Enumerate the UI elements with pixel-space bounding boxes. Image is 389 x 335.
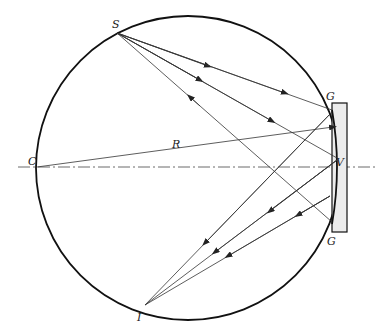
rowland-circle [36,16,340,320]
label-vertex: V [336,156,345,169]
incident-rays [117,33,337,222]
label-center: C [28,155,37,168]
radius-line [37,127,333,167]
label-grating-bottom: G [327,235,336,248]
label-image: I [136,311,142,324]
label-grating-top: G [326,90,335,103]
rowland-circle-diagram: S I C R V G G [0,0,389,335]
ray-arrow [190,97,200,106]
label-radius: R [171,138,180,151]
label-source: S [112,18,120,31]
